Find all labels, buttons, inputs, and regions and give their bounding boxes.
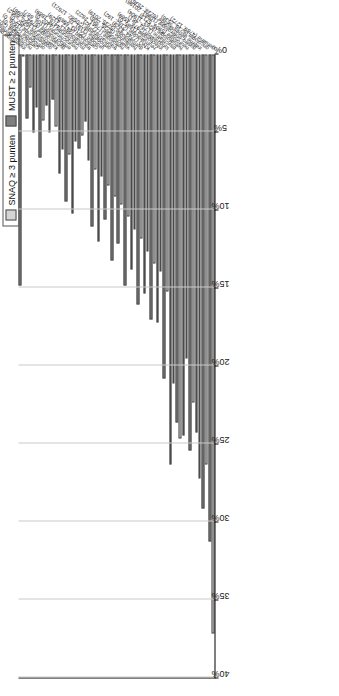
bar-snaq: [113, 54, 116, 196]
bar-group: [123, 54, 130, 677]
bar-snaq: [139, 54, 142, 238]
x-tick-label: 10%: [211, 200, 229, 210]
bar-snaq: [198, 54, 201, 478]
legend-item-snaq: SNAQ ≥ 3 punten: [5, 135, 16, 220]
legend-swatch-must: [5, 115, 16, 126]
bar-must: [18, 54, 21, 285]
bar-must: [149, 54, 152, 319]
bar-snaq: [35, 54, 38, 107]
bar-must: [130, 54, 133, 269]
bar-group: [129, 54, 136, 677]
bar-group: [136, 54, 143, 677]
bar-group: [149, 54, 156, 677]
x-tick-label: 25%: [211, 434, 229, 444]
bar-must: [175, 54, 178, 422]
bar-rows: [18, 54, 214, 677]
bar-must: [25, 54, 28, 118]
gridline: [18, 364, 214, 365]
bar-must: [103, 54, 106, 219]
bar-must: [156, 54, 159, 322]
bar-snaq: [80, 54, 83, 135]
bar-group: [83, 54, 90, 677]
legend-swatch-snaq: [5, 209, 16, 220]
bar-snaq: [152, 54, 155, 263]
chart-legend: SNAQ ≥ 3 punten MUST ≥ 2 punten: [2, 34, 19, 226]
gridline: [18, 130, 214, 131]
gridline: [18, 442, 214, 443]
bar-snaq: [133, 54, 136, 229]
bar-group: [188, 54, 195, 677]
bar-group: [155, 54, 162, 677]
bar-must: [123, 54, 126, 285]
bar-must: [45, 54, 48, 105]
bar-group: [103, 54, 110, 677]
bar-must: [110, 54, 113, 260]
bar-must: [71, 54, 74, 213]
bar-group: [18, 54, 25, 677]
bar-snaq: [211, 54, 214, 633]
bar-group: [51, 54, 58, 677]
bar-snaq: [54, 54, 57, 126]
bar-must: [90, 54, 93, 226]
bar-group: [162, 54, 169, 677]
bar-must: [32, 54, 35, 132]
x-tick-label: 40%: [211, 668, 229, 678]
bar-group: [70, 54, 77, 677]
bar-group: [25, 54, 32, 677]
bar-group: [38, 54, 45, 677]
bar-group: [64, 54, 71, 677]
bar-snaq: [28, 54, 31, 87]
bar-group: [168, 54, 175, 677]
bar-snaq: [204, 54, 207, 464]
bar-snaq: [93, 54, 96, 169]
legend-label-must: MUST ≥ 2 punten: [6, 40, 16, 110]
bar-snaq: [146, 54, 149, 251]
bar-snaq: [87, 54, 90, 160]
bar-snaq: [165, 54, 168, 291]
bar-chart-figure: SNAQ ≥ 3 punten MUST ≥ 2 punten 0%5%10%1…: [0, 0, 339, 696]
legend-label-snaq: SNAQ ≥ 3 punten: [6, 135, 16, 205]
gridline: [18, 286, 214, 287]
gridline: [18, 598, 214, 599]
bar-snaq: [191, 54, 194, 402]
bar-group: [96, 54, 103, 677]
bar-snaq: [61, 54, 64, 149]
bar-group: [175, 54, 182, 677]
bar-group: [194, 54, 201, 677]
bar-must: [84, 54, 87, 121]
bar-snaq: [100, 54, 103, 176]
bar-must: [182, 54, 185, 435]
bar-snaq: [41, 54, 44, 120]
bar-group: [90, 54, 97, 677]
bar-snaq: [178, 54, 181, 438]
bar-must: [188, 54, 191, 450]
bar-must: [51, 54, 54, 99]
plot-area: [18, 54, 214, 678]
bar-must: [136, 54, 139, 304]
bar-group: [77, 54, 84, 677]
bar-group: [116, 54, 123, 677]
bar-snaq: [119, 54, 122, 204]
bar-must: [162, 54, 165, 378]
bar-snaq: [67, 54, 70, 154]
bar-snaq: [159, 54, 162, 271]
bar-snaq: [106, 54, 109, 185]
bar-must: [208, 54, 211, 541]
chart-stage: SNAQ ≥ 3 punten MUST ≥ 2 punten 0%5%10%1…: [0, 0, 339, 696]
bar-must: [97, 54, 100, 241]
bar-snaq: [21, 54, 24, 56]
bar-must: [58, 54, 61, 173]
bar-must: [64, 54, 67, 201]
bar-group: [142, 54, 149, 677]
bar-snaq: [172, 54, 175, 383]
bar-snaq: [185, 54, 188, 358]
legend-item-must: MUST ≥ 2 punten: [5, 40, 16, 125]
bar-group: [57, 54, 64, 677]
x-tick-label: 15%: [211, 278, 229, 288]
bar-must: [143, 54, 146, 293]
bar-group: [31, 54, 38, 677]
bar-must: [116, 54, 119, 243]
gridline: [18, 520, 214, 521]
bar-snaq: [74, 54, 77, 141]
bar-group: [109, 54, 116, 677]
